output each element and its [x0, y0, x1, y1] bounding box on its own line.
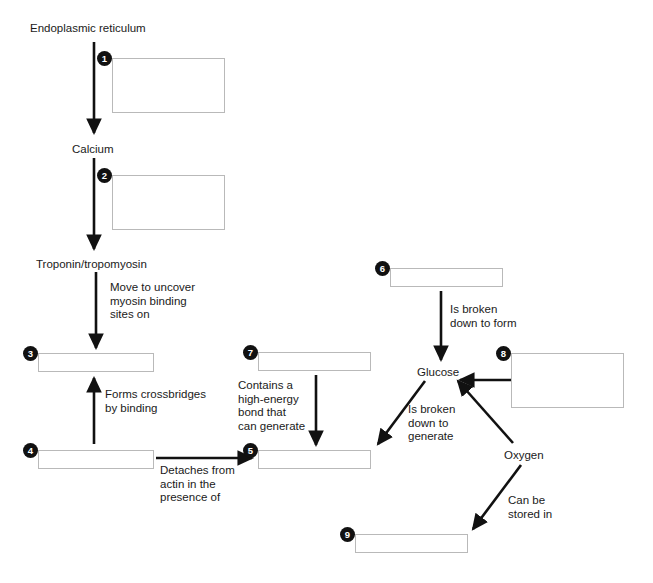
arrow-layer	[0, 0, 653, 583]
term-glucose: Glucose	[417, 366, 459, 379]
caption-move-to-uncover: Move to uncover myosin binding sites on	[110, 281, 195, 322]
answer-blank-8[interactable]	[511, 353, 624, 408]
concept-map-canvas: Endoplasmic reticulumCalciumTroponin/tro…	[0, 0, 653, 583]
blank-number-marker-2: 2	[97, 168, 112, 183]
blank-number-marker-1: 1	[97, 51, 112, 66]
caption-is-broken-down-to-form: Is broken down to form	[450, 303, 516, 330]
caption-is-broken-down-to-generate: Is broken down to generate	[408, 403, 455, 444]
answer-blank-2[interactable]	[112, 175, 225, 230]
blank-number-marker-9: 9	[340, 527, 355, 542]
answer-blank-4[interactable]	[38, 450, 154, 469]
caption-detaches-from-actin: Detaches from actin in the presence of	[160, 464, 235, 505]
answer-blank-1[interactable]	[112, 58, 225, 113]
caption-forms-crossbridges: Forms crossbridges by binding	[105, 388, 206, 415]
answer-blank-7[interactable]	[258, 352, 371, 371]
blank-number-marker-8: 8	[496, 346, 511, 361]
term-oxygen: Oxygen	[504, 449, 544, 462]
arrow-oxygen-to-glucose	[458, 381, 513, 443]
blank-number-marker-7: 7	[243, 345, 258, 360]
answer-blank-3[interactable]	[38, 353, 154, 372]
term-endoplasmic-reticulum: Endoplasmic reticulum	[30, 22, 146, 35]
blank-number-marker-5: 5	[243, 443, 258, 458]
term-calcium: Calcium	[72, 143, 114, 156]
blank-number-marker-6: 6	[375, 261, 390, 276]
blank-number-marker-4: 4	[23, 443, 38, 458]
answer-blank-6[interactable]	[390, 268, 503, 287]
caption-can-be-stored-in: Can be stored in	[508, 494, 552, 521]
answer-blank-9[interactable]	[355, 534, 468, 553]
blank-number-marker-3: 3	[23, 346, 38, 361]
caption-contains-high-energy-bond: Contains a high-energy bond that can gen…	[238, 379, 305, 433]
answer-blank-5[interactable]	[258, 450, 371, 469]
term-troponin-tropomyosin: Troponin/tropomyosin	[36, 258, 147, 271]
